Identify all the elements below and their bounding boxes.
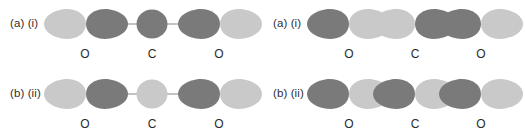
orbital-figure: (a) (i) O C O (a) (i) O C O (b) (ii) bbox=[0, 0, 525, 139]
atom-label-o-left: O bbox=[75, 48, 95, 60]
lobe-o-left-inner bbox=[86, 79, 128, 109]
orbital-c-center bbox=[137, 80, 168, 109]
atom-label-o-right: O bbox=[209, 118, 229, 130]
lobe-o-left-inner bbox=[86, 9, 128, 39]
panel-top-left: (a) (i) O C O bbox=[0, 0, 262, 69]
panel-bottom-right: (b) (ii) O C O bbox=[263, 70, 525, 139]
panel-top-right: (a) (i) O C O bbox=[263, 0, 525, 69]
orbital-c-center bbox=[137, 10, 168, 39]
lobe-o-right-outer bbox=[220, 9, 262, 39]
lobe-o-left-outer bbox=[307, 9, 349, 39]
atom-label-o-left: O bbox=[339, 48, 359, 60]
atom-label-o-left: O bbox=[339, 118, 359, 130]
panel-bottom-left: (b) (ii) O C O bbox=[0, 70, 262, 139]
lobe-o-left-outer bbox=[44, 79, 86, 109]
lobe-o-right-outer bbox=[220, 79, 262, 109]
lobe-o-left-outer bbox=[44, 9, 86, 39]
atom-label-o-right: O bbox=[209, 48, 229, 60]
lobe-o-right-inner bbox=[178, 9, 220, 39]
atom-label-o-right: O bbox=[471, 48, 491, 60]
lobe-o-right-inner bbox=[178, 79, 220, 109]
atom-label-o-left: O bbox=[75, 118, 95, 130]
lobe-o-right-outer bbox=[481, 79, 523, 109]
atom-label-c: C bbox=[405, 118, 425, 130]
lobe-o-right-outer bbox=[481, 9, 523, 39]
lobe-o-left-outer bbox=[307, 79, 349, 109]
atom-label-c: C bbox=[142, 48, 162, 60]
atom-label-o-right: O bbox=[471, 118, 491, 130]
atom-label-c: C bbox=[405, 48, 425, 60]
atom-label-c: C bbox=[142, 118, 162, 130]
